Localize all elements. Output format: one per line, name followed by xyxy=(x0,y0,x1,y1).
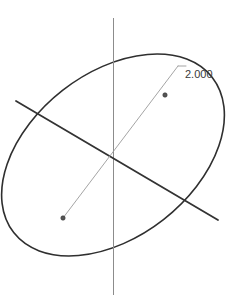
dimension-value-label[interactable]: 2.000 xyxy=(185,68,213,80)
diagonal-dimension-line[interactable] xyxy=(63,66,178,218)
ellipse-outline[interactable] xyxy=(0,13,229,297)
sketch-drawing-area[interactable] xyxy=(0,0,229,302)
dimension-point-lower-left-icon[interactable] xyxy=(61,216,65,220)
major-axis-line[interactable] xyxy=(16,101,218,220)
ellipse-shape-group[interactable] xyxy=(0,13,229,297)
dimension-point-upper-right-icon[interactable] xyxy=(163,93,167,97)
cad-sketch-canvas[interactable]: 2.000 xyxy=(0,0,229,302)
